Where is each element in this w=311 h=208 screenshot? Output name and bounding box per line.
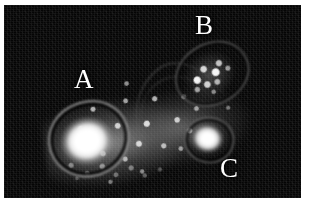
sparse-knot-tail — [54, 149, 177, 198]
bright-core-a — [50, 106, 124, 175]
knotty-lobe-b — [171, 36, 250, 111]
contour-filament-secondary — [124, 63, 214, 141]
background-noise-texture — [4, 5, 301, 198]
figure-panel: A B C — [0, 0, 311, 208]
image-plate: A B C — [4, 5, 301, 198]
contour-filament-a-to-b — [113, 46, 228, 152]
contour-ring-a — [38, 90, 139, 188]
component-label-b: B — [195, 12, 213, 39]
component-label-a: A — [74, 66, 94, 93]
contour-ring-b — [163, 27, 261, 121]
component-label-c: C — [220, 155, 238, 182]
